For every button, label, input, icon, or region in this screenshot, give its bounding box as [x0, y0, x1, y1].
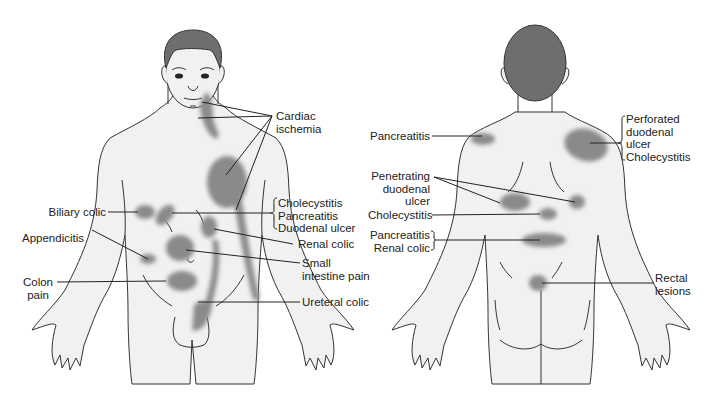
label-biliary-colic: Biliary colic [18, 206, 106, 219]
pain-renal [201, 216, 217, 238]
pain-back-left-shoulder [471, 133, 495, 145]
label-pancreatitis-back: Pancreatitis [370, 130, 430, 143]
label-cardiac-ischemia: Cardiac ischemia [276, 110, 321, 135]
label-cholecystitis-pancreatitis-duodenal-ulcer: Cholecystitis Pancreatitis Duodenal ulce… [278, 197, 355, 235]
label-penetrating-duodenal-ulcer: Penetrating duodenal ulcer [360, 170, 430, 208]
label-cholecystitis-back: Cholecystitis [368, 209, 433, 222]
label-pancreatitis-renal-colic-back: Pancreatitis Renal colic [350, 229, 430, 254]
pain-back-duodenal-right [569, 195, 585, 209]
pain-small-intestine [166, 235, 194, 261]
pain-colon [167, 271, 197, 291]
back-head-hair [504, 25, 566, 101]
back-figure [392, 25, 690, 384]
label-renal-colic: Renal colic [298, 238, 354, 251]
label-colon-pain: Colon pain [18, 276, 58, 301]
label-ureteral-colic: Ureteral colic [302, 296, 369, 309]
referred-pain-diagram: Cardiac ischemia Cholecystitis Pancreati… [0, 0, 707, 396]
label-perforated-duodenal-ulcer-cholecystitis: Perforated duodenal ulcer Cholecystitis [626, 113, 691, 163]
label-rectal-lesions: Rectal lesions [655, 272, 691, 297]
pain-back-duodenal-left [500, 193, 530, 211]
label-small-intestine-pain: Small intestine pain [302, 257, 370, 282]
pain-back-cholecystitis [539, 208, 557, 220]
label-appendicitis: Appendicitis [22, 232, 84, 245]
